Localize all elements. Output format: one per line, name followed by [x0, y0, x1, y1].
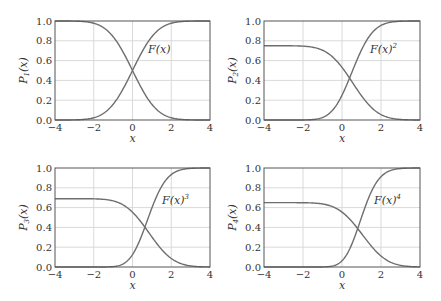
curve-annotation: F(x)4 — [373, 193, 401, 207]
y-tick-label: 1.0 — [36, 163, 52, 174]
x-axis-label: x — [129, 132, 136, 145]
y-axis-label: P4(x) — [226, 204, 240, 232]
y-tick-label: 0.4 — [245, 222, 261, 233]
x-axis-label: x — [339, 132, 346, 145]
y-tick-label: 0.6 — [36, 202, 52, 213]
x-tick-label: −2 — [296, 269, 311, 280]
y-tick-label: 0.0 — [36, 115, 52, 126]
x-tick-label: 4 — [207, 122, 213, 133]
figure: −4−20240.00.20.40.60.81.0xP1(x)F(x)−4−20… — [0, 0, 441, 301]
y-tick-label: 0.8 — [36, 182, 52, 193]
y-tick-label: 0.4 — [245, 75, 261, 86]
x-tick-label: −2 — [86, 122, 101, 133]
x-tick-label: −2 — [296, 122, 311, 133]
y-tick-label: 0.2 — [36, 242, 52, 253]
y-tick-label: 0.8 — [245, 35, 261, 46]
y-tick-label: 0.6 — [245, 202, 261, 213]
x-tick-label: −2 — [86, 269, 101, 280]
x-axis-label: x — [339, 279, 346, 292]
x-tick-label: 4 — [207, 269, 213, 280]
x-axis-label: x — [129, 279, 136, 292]
y-tick-label: 0.8 — [245, 182, 261, 193]
y-axis-label: P1(x) — [17, 57, 31, 85]
y-tick-label: 1.0 — [245, 163, 261, 174]
y-tick-label: 0.0 — [245, 262, 261, 273]
y-tick-label: 1.0 — [36, 16, 52, 27]
x-tick-label: 2 — [378, 122, 384, 133]
x-tick-label: 2 — [168, 269, 174, 280]
y-tick-label: 0.2 — [245, 242, 261, 253]
y-tick-label: 0.2 — [245, 95, 261, 106]
y-tick-label: 1.0 — [245, 16, 261, 27]
x-tick-label: 2 — [378, 269, 384, 280]
curve-annotation: F(x)3 — [161, 193, 189, 207]
y-tick-label: 0.6 — [245, 55, 261, 66]
x-tick-label: 4 — [417, 269, 423, 280]
y-tick-label: 0.4 — [36, 222, 52, 233]
y-tick-label: 0.4 — [36, 75, 52, 86]
y-tick-label: 0.2 — [36, 95, 52, 106]
y-tick-label: 0.0 — [245, 115, 261, 126]
y-axis-label: P3(x) — [17, 204, 31, 232]
curve-annotation: F(x) — [147, 43, 170, 56]
y-axis-label: P2(x) — [226, 57, 240, 85]
y-tick-label: 0.8 — [36, 35, 52, 46]
y-tick-label: 0.0 — [36, 262, 52, 273]
y-tick-label: 0.6 — [36, 55, 52, 66]
x-tick-label: 2 — [168, 122, 174, 133]
x-tick-label: 4 — [417, 122, 423, 133]
curve-annotation: F(x)2 — [369, 42, 397, 56]
